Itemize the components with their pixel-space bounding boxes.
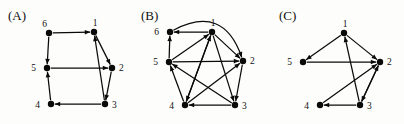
- panel-a-graph: 123456: [0, 0, 135, 124]
- node-1: 1: [91, 18, 98, 35]
- edge-5-to-2: [173, 59, 239, 64]
- node-label-1: 1: [93, 18, 98, 28]
- figure-directed-graph-panels: (A) 123456 (B) 123456 (C) 12345: [0, 0, 404, 124]
- node-5: 5: [287, 57, 306, 67]
- node-6: 6: [154, 27, 173, 37]
- node-dot-5: [44, 65, 50, 71]
- node-2: 2: [240, 56, 255, 66]
- node-label-5: 5: [287, 57, 292, 67]
- edge-3-to-4: [324, 103, 356, 108]
- edge-layer: [167, 21, 242, 107]
- node-dot-1: [341, 30, 347, 36]
- edge-1-to-6: [174, 30, 208, 35]
- node-dot-2: [240, 58, 246, 64]
- node-dot-1: [209, 29, 215, 35]
- node-label-2: 2: [387, 57, 392, 67]
- node-label-4: 4: [304, 101, 309, 111]
- node-5: 5: [31, 63, 50, 73]
- node-dot-3: [357, 102, 363, 108]
- node-1: 1: [341, 19, 348, 36]
- node-5: 5: [153, 57, 172, 67]
- panel-a: (A) 123456: [0, 0, 135, 124]
- node-label-5: 5: [31, 63, 36, 73]
- edge-5-to-6: [167, 36, 172, 58]
- node-dot-1: [91, 29, 97, 35]
- edge-6-to-5: [45, 37, 50, 64]
- node-label-6: 6: [42, 19, 47, 29]
- node-label-6: 6: [154, 27, 159, 37]
- node-dot-6: [46, 30, 52, 36]
- node-6: 6: [42, 19, 52, 36]
- node-label-5: 5: [153, 57, 158, 67]
- panel-c-graph: 12345: [269, 0, 404, 124]
- edge-1-to-3: [213, 36, 234, 102]
- panel-b-graph: 123456: [135, 0, 269, 124]
- panel-c: (C) 12345: [269, 0, 404, 124]
- node-4: 4: [169, 101, 188, 111]
- node-3: 3: [102, 100, 117, 110]
- node-dot-6: [167, 29, 173, 35]
- node-dot-2: [377, 59, 383, 65]
- node-2: 2: [109, 63, 124, 73]
- edge-6-to-1: [53, 30, 90, 35]
- node-4: 4: [35, 100, 54, 110]
- node-dot-5: [300, 59, 306, 65]
- node-label-2: 2: [119, 63, 124, 73]
- node-1: 1: [209, 18, 216, 35]
- edge-2-to-3: [234, 65, 242, 102]
- node-label-3: 3: [367, 101, 372, 111]
- node-dot-4: [182, 102, 188, 108]
- edge-layer: [306, 35, 378, 107]
- node-label-4: 4: [35, 100, 40, 110]
- node-label-1: 1: [343, 19, 348, 29]
- node-dot-3: [232, 102, 238, 108]
- node-dot-4: [48, 101, 54, 107]
- panel-b: (B) 123456: [135, 0, 269, 124]
- edge-1-to-2: [347, 35, 377, 59]
- edge-3-to-5: [172, 64, 232, 103]
- node-label-4: 4: [169, 101, 174, 111]
- edge-4-to-1: [186, 36, 211, 102]
- node-dot-3: [102, 101, 108, 107]
- node-dot-5: [166, 59, 172, 65]
- node-dot-4: [317, 102, 323, 108]
- edge-3-to-1: [344, 37, 359, 102]
- edge-3-to-4: [189, 103, 231, 108]
- node-label-3: 3: [242, 101, 247, 111]
- node-3: 3: [357, 101, 372, 111]
- edge-4-to-5: [46, 72, 51, 100]
- edge-4-to-2: [323, 64, 377, 103]
- node-label-2: 2: [250, 56, 255, 66]
- node-dot-2: [109, 65, 115, 71]
- node-label-1: 1: [211, 18, 216, 28]
- node-4: 4: [304, 101, 323, 111]
- edge-2-to-3: [362, 65, 379, 101]
- node-3: 3: [232, 101, 247, 111]
- edge-3-to-4: [55, 102, 101, 107]
- edge-layer: [45, 30, 111, 106]
- node-label-3: 3: [112, 100, 117, 110]
- edge-5-to-2: [307, 60, 376, 65]
- edge-1-to-5: [306, 35, 341, 60]
- node-2: 2: [377, 57, 392, 67]
- edge-2-to-3: [104, 72, 111, 101]
